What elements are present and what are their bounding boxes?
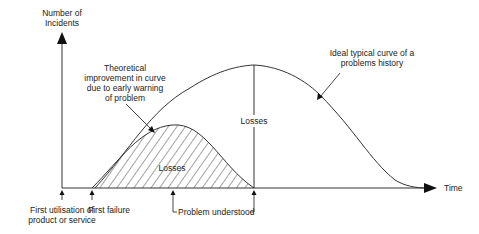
improved-curve-label-line2: improvement in curve bbox=[70, 73, 180, 83]
marker-label-problem-understood: Problem understood bbox=[178, 207, 250, 217]
marker-arrowhead-first-failure bbox=[90, 190, 95, 195]
y-axis-arrowhead bbox=[57, 32, 67, 44]
ideal-curve-label-line1: Ideal typical curve of a bbox=[312, 48, 432, 58]
x-axis-arrowhead bbox=[424, 183, 437, 193]
improved-curve-label-line3: due to early warning bbox=[70, 83, 180, 93]
marker-arrowhead-first-use bbox=[60, 190, 65, 195]
marker-label-first-failure: First failure bbox=[88, 205, 130, 215]
marker-arrowhead-problem-understood-left bbox=[171, 190, 176, 195]
marker-arrowhead-problem-understood-right bbox=[252, 190, 257, 195]
ideal-curve-label: Ideal typical curve of a problems histor… bbox=[312, 48, 432, 68]
y-axis-label-line1: Number of bbox=[32, 8, 92, 18]
losses-large-label: Losses bbox=[236, 116, 272, 126]
losses-small-label: Losses bbox=[154, 163, 190, 173]
y-axis-label-line2: Incidents bbox=[32, 18, 92, 28]
improved-curve-label-line4: of problem bbox=[70, 93, 180, 103]
ideal-curve-pointer bbox=[320, 73, 340, 97]
improved-curve-pointer bbox=[126, 104, 152, 130]
y-axis-label: Number of Incidents bbox=[32, 8, 92, 28]
improved-curve-label-line1: Theoretical bbox=[70, 63, 180, 73]
ideal-curve-label-line2: problems history bbox=[312, 58, 432, 68]
marker-label-first-use-line2: product or service bbox=[12, 215, 112, 225]
losses-hatched-area bbox=[92, 125, 254, 188]
x-axis-label: Time bbox=[444, 183, 463, 193]
improved-curve-label: Theoretical improvement in curve due to … bbox=[70, 63, 180, 103]
